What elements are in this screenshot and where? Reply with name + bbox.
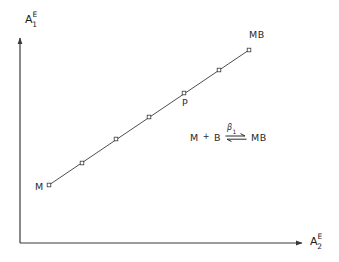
data-point-marker (147, 115, 151, 119)
equation-reactant-metal: M (190, 132, 199, 143)
x-axis-label-superscript: E (318, 232, 323, 241)
data-point-label-start: M (35, 181, 44, 192)
data-point-marker (247, 48, 251, 52)
equilibrium-constant-base: β (227, 123, 233, 132)
y-axis-label-subscript: 1 (32, 20, 37, 29)
equation-plus-sign: + (203, 132, 210, 141)
data-point-label-end: MB (249, 29, 265, 40)
plot-canvas (0, 0, 339, 262)
data-point-marker (182, 91, 186, 95)
y-axis-label-superscript: E (33, 10, 38, 19)
equation-reactant-ligand: B (214, 132, 221, 143)
chemical-equation: M + B β1 MB (190, 130, 267, 144)
x-axis-label-subscript: 2 (317, 242, 322, 251)
equilibrium-constant-label: β1 (227, 123, 237, 134)
data-point-marker (47, 183, 51, 187)
equilibrium-arrow-icon (224, 133, 248, 142)
data-point-label-mid: P (182, 97, 188, 108)
equilibrium-arrow-group: β1 (224, 130, 248, 144)
data-point-marker (217, 68, 221, 72)
y-axis-label: AE1 (25, 11, 42, 28)
data-point-marker (114, 137, 118, 141)
data-point-marker (80, 161, 84, 165)
equation-product: MB (251, 132, 267, 143)
data-series-group (47, 48, 251, 187)
x-axis-label: AE2 (310, 233, 327, 250)
absorbance-diagram: AE1 AE2 M P MB M + B β1 MB (0, 0, 339, 262)
